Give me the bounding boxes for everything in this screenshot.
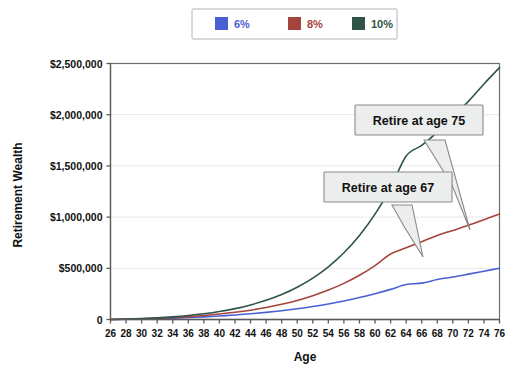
legend-label-10pct: 10% (371, 18, 393, 30)
x-tick-label: 32 (152, 328, 164, 339)
x-tick-label: 62 (385, 328, 397, 339)
x-tick-label: 50 (292, 328, 304, 339)
x-axis-title: Age (294, 350, 317, 364)
x-tick-label: 64 (401, 328, 413, 339)
x-tick-label: 30 (136, 328, 148, 339)
legend-label-6pct: 6% (234, 18, 250, 30)
y-tick-label: $2,000,000 (50, 109, 103, 121)
x-tick-label: 66 (416, 328, 428, 339)
chart-legend: 6%8%10% (192, 9, 397, 39)
y-axis-title: Retirement Wealth (11, 142, 25, 247)
x-tick-label: 40 (214, 328, 226, 339)
callout-67-label: Retire at age 67 (342, 181, 434, 195)
legend-label-8pct: 8% (307, 18, 323, 30)
legend-swatch-10pct (352, 17, 365, 30)
legend-swatch-6pct (215, 17, 228, 30)
x-tick-label: 60 (369, 328, 381, 339)
retirement-wealth-chart: 6%8%10% Retirement Wealth 0$500,000$1,00… (0, 0, 517, 370)
x-tick-label: 70 (447, 328, 459, 339)
x-tick-label: 38 (198, 328, 210, 339)
x-tick-label: 34 (167, 328, 179, 339)
legend-swatch-8pct (288, 17, 301, 30)
x-tick-label: 44 (245, 328, 257, 339)
x-tick-label: 56 (338, 328, 350, 339)
y-tick-label: $1,500,000 (50, 160, 103, 172)
chart-svg: 6%8%10% Retirement Wealth 0$500,000$1,00… (0, 0, 517, 370)
y-tick-label: 0 (97, 314, 103, 326)
x-tick-label: 68 (432, 328, 444, 339)
x-tick-label: 58 (354, 328, 366, 339)
y-tick-label: $500,000 (59, 262, 103, 274)
x-tick-label: 42 (229, 328, 241, 339)
x-tick-label: 76 (494, 328, 506, 339)
y-tick-label: $2,500,000 (50, 58, 103, 70)
x-tick-label: 36 (183, 328, 195, 339)
x-tick-label: 46 (261, 328, 273, 339)
x-tick-label: 52 (307, 328, 319, 339)
y-tick-label: $1,000,000 (50, 211, 103, 223)
x-tick-label: 28 (120, 328, 132, 339)
x-tick-label: 48 (276, 328, 288, 339)
x-tick-label: 54 (323, 328, 335, 339)
x-tick-label: 74 (478, 328, 490, 339)
x-tick-label: 72 (463, 328, 475, 339)
x-tick-label: 26 (105, 328, 117, 339)
callout-75-label: Retire at age 75 (373, 114, 465, 128)
